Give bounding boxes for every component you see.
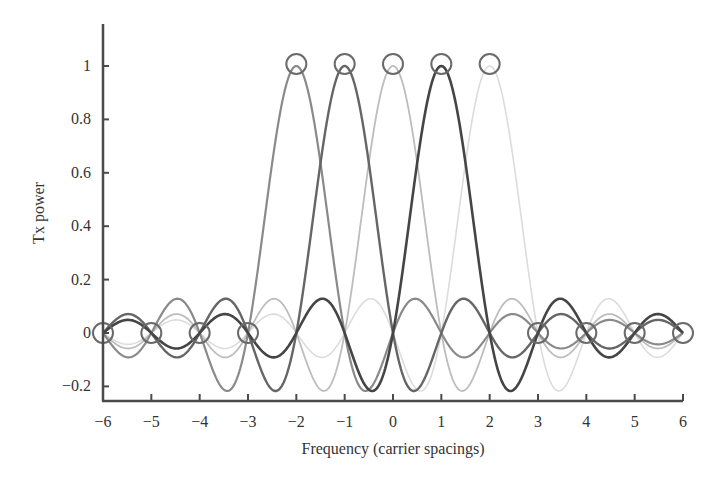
peak-marker (335, 54, 355, 74)
x-tick-label: −6 (94, 413, 111, 430)
peak-marker (286, 54, 306, 74)
y-tick-label: −0.2 (62, 377, 91, 394)
y-tick-label: 0.6 (71, 164, 91, 181)
x-tick-label: 0 (389, 413, 397, 430)
x-tick-label: 5 (631, 413, 639, 430)
x-axis-label: Frequency (carrier spacings) (301, 440, 484, 458)
peak-marker (383, 54, 403, 74)
y-tick-label: 1 (83, 57, 91, 74)
peak-marker (480, 54, 500, 74)
chart-canvas: −6−5−4−3−2−10123456−0.200.20.40.60.81 Fr… (0, 0, 723, 491)
x-tick-label: −4 (191, 413, 208, 430)
y-tick-label: 0.4 (71, 217, 91, 234)
x-tick-label: 3 (534, 413, 542, 430)
x-tick-label: 4 (582, 413, 590, 430)
x-tick-label: −5 (143, 413, 160, 430)
y-tick-label: 0.2 (71, 271, 91, 288)
x-tick-label: −2 (288, 413, 305, 430)
axes: −6−5−4−3−2−10123456−0.200.20.40.60.81 (62, 24, 687, 430)
x-tick-label: −3 (239, 413, 256, 430)
x-tick-label: 6 (679, 413, 687, 430)
y-tick-label: 0.8 (71, 110, 91, 127)
sinc-curves (103, 66, 683, 391)
y-tick-label: 0 (83, 324, 91, 341)
y-axis-label: Tx power (30, 181, 48, 243)
x-tick-label: −1 (336, 413, 353, 430)
x-tick-label: 1 (437, 413, 445, 430)
peak-marker (431, 54, 451, 74)
x-tick-label: 2 (486, 413, 494, 430)
